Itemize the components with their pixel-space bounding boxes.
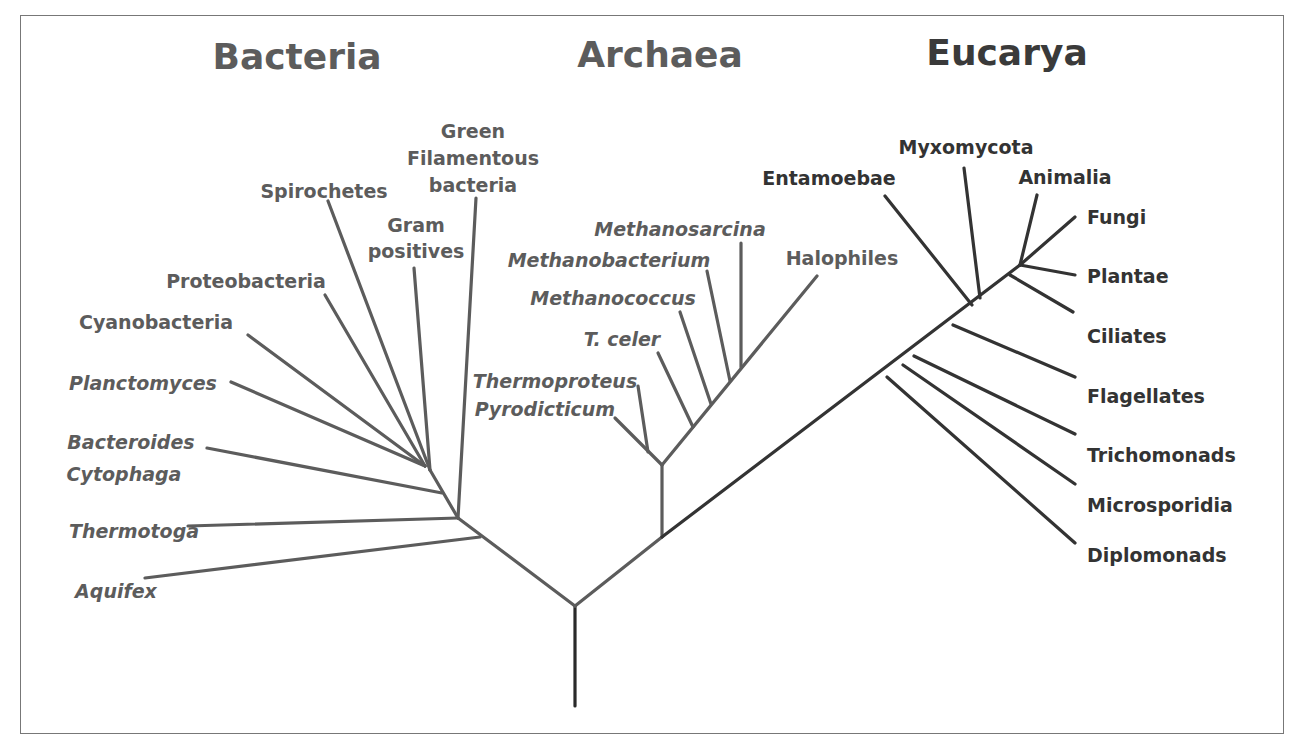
branch-methanobacterium (707, 271, 730, 381)
taxon-label-proteobacteria: Proteobacteria (166, 270, 326, 292)
branch-gram-positives (414, 268, 430, 470)
domain-title-bacteria: Bacteria (212, 36, 381, 77)
branch-diplomonads (887, 377, 1075, 543)
branch-fungi (1020, 217, 1075, 265)
taxon-label-diplomonads: Diplomonads (1087, 544, 1227, 566)
taxon-label-ciliates: Ciliates (1087, 325, 1167, 347)
branch-flagellates (953, 325, 1075, 377)
branch-bacteria-stem (458, 518, 575, 606)
taxon-label-thermoproteus: Thermoproteus (473, 370, 637, 392)
taxon-label-spirochetes: Spirochetes (260, 180, 387, 202)
taxon-label-thermotoga: Thermotoga (69, 520, 199, 542)
branch-ciliates (1010, 275, 1073, 312)
branch-euk-arch-stem (575, 537, 662, 606)
taxon-label-methanosarcina: Methanosarcina (594, 218, 765, 240)
taxon-label-planctomyces: Planctomyces (69, 372, 217, 394)
branch-aquifex (145, 537, 480, 578)
phylogenetic-tree: GreenFilamentousbacteriaSpirochetesGramp… (0, 0, 1302, 742)
taxon-label-green-filamentous-1: Green (441, 120, 505, 142)
domain-titles: BacteriaArchaeaEucarya (212, 32, 1087, 77)
taxon-label-gram-positives-1: Gram (387, 214, 445, 236)
taxon-label-green-filamentous-3: bacteria (429, 174, 517, 196)
branch-myxomycota (964, 168, 980, 298)
taxon-label-aquifex: Aquifex (73, 580, 157, 602)
branch-bacteria-inner (430, 470, 458, 518)
taxon-label-cytophaga: Cytophaga (67, 463, 182, 485)
taxon-label-green-filamentous-2: Filamentous (407, 147, 539, 169)
taxon-label-entamoebae: Entamoebae (762, 167, 895, 189)
taxon-label-fungi: Fungi (1087, 206, 1146, 228)
branch-methanococcus (680, 312, 711, 404)
branch-plantae (1020, 265, 1075, 275)
taxon-label-methanococcus: Methanococcus (530, 287, 695, 309)
domain-title-archaea: Archaea (577, 34, 743, 75)
branch-bacteroides (207, 448, 442, 493)
branch-t-celer (658, 353, 693, 427)
taxon-label-halophiles: Halophiles (786, 247, 899, 269)
taxon-label-t-celer: T. celer (584, 328, 662, 350)
taxon-label-flagellates: Flagellates (1087, 385, 1205, 407)
taxon-label-microsporidia: Microsporidia (1087, 494, 1233, 516)
domain-title-eucarya: Eucarya (926, 32, 1087, 73)
taxon-label-animalia: Animalia (1018, 166, 1111, 188)
taxon-label-plantae: Plantae (1087, 265, 1169, 287)
taxon-label-cyanobacteria: Cyanobacteria (79, 311, 233, 333)
branch-thermotoga (188, 518, 458, 526)
taxon-label-pyrodicticum: Pyrodicticum (475, 398, 615, 420)
taxon-label-trichomonads: Trichomonads (1087, 444, 1236, 466)
taxon-label-gram-positives-2: positives (368, 240, 465, 262)
branch-pyrodicticum (615, 418, 662, 465)
taxon-label-methanobacterium: Methanobacterium (508, 249, 711, 271)
taxon-label-bacteroides: Bacteroides (67, 431, 194, 453)
taxon-label-myxomycota: Myxomycota (898, 136, 1033, 158)
